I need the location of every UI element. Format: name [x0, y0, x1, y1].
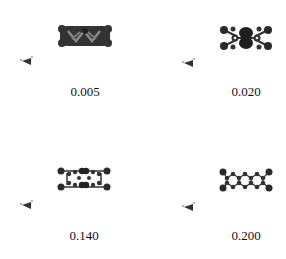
axis-triad-icon [182, 58, 196, 68]
isovalue-label: 0.020 [216, 84, 276, 100]
axis-triad-icon [182, 202, 196, 212]
molecule-partial-surface-icon [219, 24, 273, 52]
isovalue-label: 0.200 [216, 228, 276, 244]
panel-0005: 0.005 [0, 0, 143, 130]
axis-triad-icon [20, 56, 34, 66]
isovalue-label: 0.005 [55, 84, 115, 100]
panel-0020: 0.020 [143, 0, 286, 130]
molecule-surface-icon [58, 23, 112, 49]
panel-0200: 0.200 [143, 130, 286, 259]
molecule-ball-and-stick-icon [57, 167, 111, 193]
isovalue-label: 0.140 [54, 228, 114, 244]
molecule-ball-and-stick-icon [219, 168, 273, 192]
axis-triad-icon [20, 200, 34, 210]
panel-0140: 0.140 [0, 130, 143, 259]
